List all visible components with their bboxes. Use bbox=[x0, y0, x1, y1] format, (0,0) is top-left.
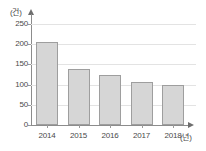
y-tick-mark bbox=[28, 125, 31, 126]
x-tick-label-2016: 2016 bbox=[95, 131, 125, 140]
x-tick-label-2015: 2015 bbox=[64, 131, 94, 140]
bar-2018 bbox=[162, 85, 184, 125]
x-tick-mark bbox=[142, 125, 143, 128]
x-tick-mark bbox=[79, 125, 80, 128]
y-tick-label: 200 bbox=[4, 39, 28, 48]
y-tick-label: 150 bbox=[4, 59, 28, 68]
y-tick-label: 100 bbox=[4, 80, 28, 89]
x-axis-arrow bbox=[188, 122, 194, 128]
gridline bbox=[31, 24, 196, 25]
y-axis-line bbox=[31, 14, 32, 126]
bar-2014 bbox=[36, 42, 58, 125]
x-tick-label-2014: 2014 bbox=[32, 131, 62, 140]
y-tick-mark bbox=[28, 64, 31, 65]
bar-chart: (건) 050100150200250 20142015201620172018… bbox=[0, 0, 206, 151]
y-axis-unit-label: (건) bbox=[10, 6, 22, 17]
x-axis-unit-label: (년) bbox=[180, 131, 192, 142]
y-tick-label: 250 bbox=[4, 19, 28, 28]
bar-2015 bbox=[68, 69, 90, 125]
bar-2017 bbox=[131, 82, 153, 125]
y-tick-mark bbox=[28, 105, 31, 106]
x-tick-mark bbox=[110, 125, 111, 128]
y-tick-mark bbox=[28, 24, 31, 25]
y-tick-label: 50 bbox=[4, 100, 28, 109]
x-tick-label-2017: 2017 bbox=[127, 131, 157, 140]
x-tick-mark bbox=[47, 125, 48, 128]
bar-2016 bbox=[99, 75, 121, 125]
y-tick-mark bbox=[28, 85, 31, 86]
y-tick-label: 0 bbox=[4, 120, 28, 129]
x-tick-mark bbox=[173, 125, 174, 128]
y-tick-mark bbox=[28, 44, 31, 45]
